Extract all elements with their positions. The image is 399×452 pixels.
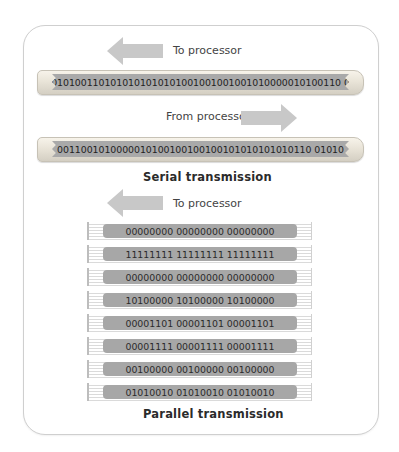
bit-band: 10100000 10100000 10100000 [103, 293, 297, 307]
parallel-wire-5: 00001101 00001101 00001101 [87, 314, 312, 332]
parallel-wire-8: 01010010 01010010 01010010 [87, 383, 312, 401]
serial-caption: Serial transmission [143, 170, 272, 184]
parallel-caption: Parallel transmission [143, 407, 284, 421]
parallel-to-processor-label: To processor [173, 197, 242, 210]
bit-band: 00001111 00001111 00001111 [103, 339, 297, 353]
wire-bits: 00001111 00001111 00001111 [125, 341, 274, 352]
bit-band: 0011001010000010100100100100101010101010… [52, 141, 349, 157]
wire-bits: 11111111 11111111 11111111 [125, 249, 274, 260]
parallel-wire-3: 00000000 00000000 00000000 [87, 268, 312, 286]
arrow-right-icon [241, 104, 297, 132]
wire-bits: 10100000 10100000 10100000 [125, 295, 274, 306]
bit-band: 0101001101010101010101001001001001010000… [52, 74, 349, 90]
parallel-wire-4: 10100000 10100000 10100000 [87, 291, 312, 309]
bit-band: 00100000 00100000 00100000 [103, 362, 297, 376]
serial-from-processor-label: From processor [166, 110, 250, 123]
arrow-left-icon [107, 37, 163, 65]
wire-bits: 00000000 00000000 00000000 [125, 226, 274, 237]
wire-bits: 00000000 00000000 00000000 [125, 272, 274, 283]
wire-bits: 00100000 00100000 00100000 [125, 364, 274, 375]
parallel-wire-2: 11111111 11111111 11111111 [87, 245, 312, 263]
bit-band: 00000000 00000000 00000000 [103, 270, 297, 284]
parallel-wire-7: 00100000 00100000 00100000 [87, 360, 312, 378]
parallel-wire-6: 00001111 00001111 00001111 [87, 337, 312, 355]
wire-bits: 00001101 00001101 00001101 [125, 318, 274, 329]
wire-bits: 01010010 01010010 01010010 [125, 387, 274, 398]
bit-band: 00000000 00000000 00000000 [103, 224, 297, 238]
bit-band: 11111111 11111111 11111111 [103, 247, 297, 261]
serial-bits-2: 0011001010000010100100100100101010101010… [57, 144, 344, 155]
serial-to-processor-label: To processor [173, 44, 242, 57]
serial-bus-from-processor: 0011001010000010100100100100101010101010… [37, 137, 364, 162]
bit-band: 01010010 01010010 01010010 [103, 385, 297, 399]
parallel-wire-1: 00000000 00000000 00000000 [87, 222, 312, 240]
serial-bus-to-processor: 0101001101010101010101001001001001010000… [37, 70, 364, 95]
bit-band: 00001101 00001101 00001101 [103, 316, 297, 330]
arrow-left-icon [107, 189, 163, 217]
serial-bits-1: 0101001101010101010101001001001001010000… [51, 77, 350, 88]
